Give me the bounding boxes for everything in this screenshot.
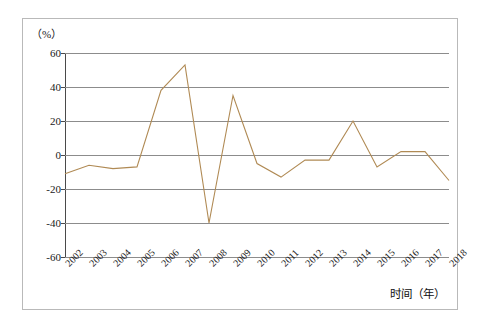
y-tick-label: 40	[21, 81, 61, 93]
y-tick-label: -60	[21, 251, 61, 263]
y-axis-unit-label: （%）	[31, 25, 62, 41]
y-tick-label: 0	[21, 149, 61, 161]
y-tick-label: 60	[21, 47, 61, 59]
chart-figure: （%） 6040200-20-40-60 2002200320042005200…	[22, 18, 458, 310]
x-tick-label: 2018	[447, 247, 469, 269]
series-line	[65, 65, 449, 223]
y-tick-label: 20	[21, 115, 61, 127]
y-tick-label: -20	[21, 183, 61, 195]
y-tick-label: -40	[21, 217, 61, 229]
x-axis-title: 时间（年）	[390, 285, 445, 301]
plot-area: 6040200-20-40-60 20022003200420052006200…	[65, 53, 449, 257]
line-series-svg	[65, 53, 449, 257]
